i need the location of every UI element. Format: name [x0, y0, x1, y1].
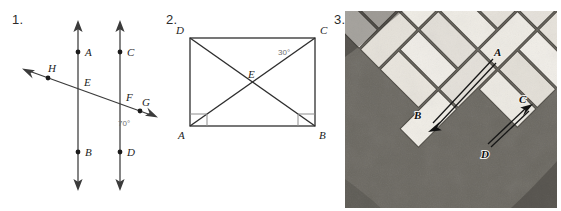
brick-point-B-label: B — [413, 109, 421, 121]
point-C-dot — [118, 50, 123, 55]
transversal-arrowhead-left — [22, 69, 35, 79]
point-C-label: C — [127, 46, 135, 58]
point-G-dot — [138, 109, 143, 114]
brick-pavement-photo: A B C D — [345, 11, 557, 208]
brick-point-C-label: C — [519, 93, 527, 105]
figure-3-number: 3. — [334, 13, 345, 26]
point-B-dot — [76, 150, 81, 155]
point-A-dot — [76, 50, 81, 55]
line-AB — [73, 20, 82, 191]
point-E-label: E — [83, 76, 91, 88]
transversal-arrowhead-right — [145, 107, 158, 117]
figure-3-panel: 3. — [330, 0, 561, 211]
figure-1-diagram: A B C D E F G H 70° — [0, 0, 160, 211]
point-D-label: D — [126, 146, 135, 158]
brick-point-D-label: D — [480, 148, 489, 160]
point-H-dot — [46, 76, 51, 81]
point-D-dot — [118, 150, 123, 155]
vertex-A-label: A — [177, 129, 185, 141]
geometry-worksheet: 1. — [0, 0, 561, 211]
figure-1-panel: 1. — [0, 0, 160, 211]
point-F-label: F — [125, 91, 133, 103]
intersection-E-label: E — [247, 68, 255, 80]
vertex-C-label: C — [320, 24, 328, 36]
vertex-D-label: D — [175, 24, 184, 36]
point-B-label: B — [85, 146, 92, 158]
vertex-B-label: B — [319, 129, 326, 141]
point-G-label: G — [142, 96, 150, 108]
angle-label-70deg: 70° — [118, 119, 130, 128]
point-H-label: H — [47, 62, 57, 74]
figure-2-diagram: D C B A E 30° — [160, 0, 340, 211]
angle-label-30deg: 30° — [278, 48, 290, 57]
point-A-label: A — [84, 46, 92, 58]
brick-pavement-illustration: A B C D — [345, 11, 557, 208]
figure-2-panel: 2. D C B A E 30° — [160, 0, 340, 211]
brick-point-A-label: A — [493, 46, 501, 58]
figure-1-points: A B C D E F G H — [46, 46, 150, 158]
